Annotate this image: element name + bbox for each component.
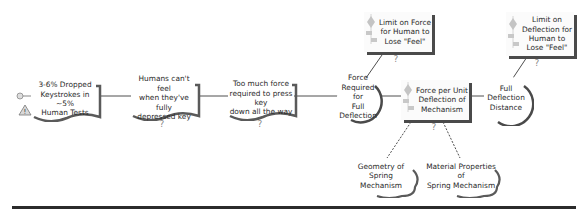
node-label: Too much force required to press key dow… — [228, 79, 294, 117]
svg-text:?: ? — [535, 58, 540, 68]
node-humans-cant-feel[interactable]: Humans can't feel when they've fully dep… — [131, 83, 197, 113]
node-geometry-of-spring[interactable]: Geometry of Spring Mechanism — [345, 158, 417, 194]
node-material-properties[interactable]: Material Properties of Spring Mechanism — [423, 158, 499, 194]
svg-text:?: ? — [432, 122, 437, 132]
diamond-gauge-icon — [402, 80, 416, 114]
node-label: Full Deflection Distance — [484, 84, 528, 112]
question-icon: ? — [392, 53, 400, 65]
node-label: Force Required for Full Deflection — [337, 73, 379, 120]
node-force-required[interactable]: Force Required for Full Deflection — [337, 76, 379, 118]
diamond-gauge-icon — [507, 14, 521, 50]
node-dropped-keystrokes[interactable]: 3-6% Dropped Keystrokes in ~5% Human Tes… — [32, 84, 98, 114]
node-label: Limit on Force for Human to Lose "Feel" — [379, 18, 431, 46]
diamond-gauge-icon — [365, 12, 379, 46]
key-icon — [16, 92, 32, 100]
diagram-canvas: 3-6% Dropped Keystrokes in ~5% Human Tes… — [0, 0, 587, 217]
question-icon: ? — [256, 118, 264, 130]
svg-text:!: ! — [24, 108, 27, 116]
node-label: Limit on Deflection for Human to Lose "F… — [522, 15, 572, 53]
edge-n6-n9 — [387, 122, 411, 158]
node-label: Force per Unit Deflection of Mechanism — [416, 86, 468, 114]
node-too-much-force[interactable]: Too much force required to press key dow… — [228, 83, 294, 113]
edge-n6-n10 — [443, 122, 460, 158]
node-label: 3-6% Dropped Keystrokes in ~5% Human Tes… — [32, 80, 98, 118]
horizontal-rule — [12, 206, 576, 209]
svg-text:?: ? — [258, 119, 263, 129]
edge-n7-n8 — [513, 57, 527, 78]
warning-icon: ! — [18, 104, 32, 116]
question-icon: ? — [533, 57, 541, 69]
node-label: Humans can't feel when they've fully dep… — [131, 74, 197, 121]
node-full-deflection-distance[interactable]: Full Deflection Distance — [484, 76, 528, 120]
node-label: Geometry of Spring Mechanism — [345, 162, 417, 190]
node-label: Material Properties of Spring Mechanism — [423, 162, 499, 190]
question-icon: ? — [430, 121, 438, 133]
svg-text:?: ? — [394, 54, 399, 64]
